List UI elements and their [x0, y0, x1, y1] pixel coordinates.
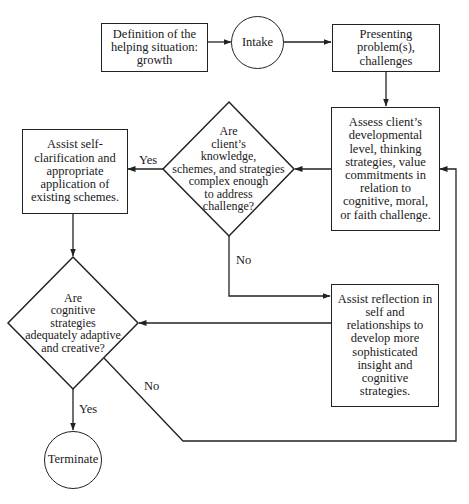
label-yes-complex: Yes [139, 154, 157, 167]
label-no-complex: No [236, 254, 251, 267]
node-presenting: Presenting problem(s), challenges [332, 24, 440, 72]
node-definition-text: Definition of the helping situation: gro… [111, 28, 198, 68]
node-assess-text: Assess client’s developmental level, thi… [340, 116, 431, 222]
node-presenting-text: Presenting problem(s), challenges [357, 28, 415, 68]
node-assist-self-text: Assist self- clarification and appropria… [31, 138, 119, 204]
node-assist-reflection-text: Assist reflection in self and relationsh… [338, 293, 432, 399]
decision-complex-text: Are client’s knowledge, schemes, and str… [172, 125, 284, 213]
label-no-adaptive: No [144, 380, 159, 393]
node-definition: Definition of the helping situation: gro… [101, 23, 208, 72]
flowchart-connectors [0, 0, 469, 504]
label-yes-adaptive: Yes [79, 403, 97, 416]
node-intake: Intake [231, 16, 284, 69]
decision-adaptive-text: Are cognitive strategies adequately adap… [25, 292, 121, 355]
node-assess: Assess client’s developmental level, thi… [331, 107, 440, 231]
decision-complex-text-container: Are client’s knowledge, schemes, and str… [163, 102, 294, 236]
node-assist-reflection: Assist reflection in self and relationsh… [331, 284, 439, 407]
decision-adaptive-text-container: Are cognitive strategies adequately adap… [8, 257, 138, 389]
node-intake-text: Intake [242, 36, 273, 49]
node-assist-self: Assist self- clarification and appropria… [22, 129, 128, 214]
node-terminate: Terminate [44, 431, 102, 489]
node-terminate-text: Terminate [48, 453, 99, 466]
